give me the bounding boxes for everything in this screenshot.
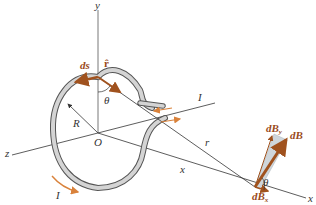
r-vector-line [98,77,255,187]
dBy-label: dBy [266,123,282,136]
r-hat-label: r̂ [104,58,109,69]
theta-loop-label: θ [104,95,109,106]
current-loop-label: I [56,190,60,201]
r-hat-vector [98,77,120,92]
current-lead-label: I [198,92,202,103]
x-axis-label: x [308,193,313,204]
y-axis-label: y [95,0,100,11]
theta-arc-loop [98,86,110,92]
z-axis-label: z [5,148,9,159]
dBx-label: dBx [252,191,268,204]
diagram-canvas [0,0,316,205]
radius-label: R [73,118,80,129]
ds-label: ds [80,60,90,71]
dB-label: dB [290,130,303,141]
origin-label: O [94,137,102,148]
z-axis [12,103,215,155]
distance-x-label: x [180,164,185,175]
biot-savart-loop-diagram: y z x O R ds r̂ θ I I r x θ dB dBy dBx [0,0,316,205]
distance-r-label: r [205,137,209,148]
theta-field-label: θ [263,177,268,188]
